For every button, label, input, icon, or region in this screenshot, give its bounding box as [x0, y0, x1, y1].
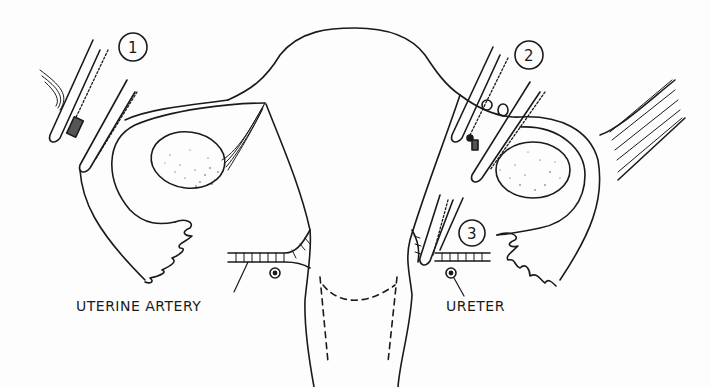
left-broad-ligament-outer: [80, 170, 145, 280]
left-fimbriae: [145, 220, 192, 282]
uterus-diagram: 1 2: [0, 0, 710, 387]
cervix-incision-line: [320, 277, 397, 362]
right-ligament-fan: [610, 80, 682, 172]
left-uterine-wall: [266, 104, 314, 387]
right-ovary: [496, 142, 570, 198]
left-tube: [125, 100, 228, 120]
left-ovary-stipple: [165, 150, 219, 187]
left-ligament-fan: [222, 103, 265, 170]
right-fimbriae: [497, 233, 556, 286]
right-uterine-wall: [398, 95, 460, 387]
uterus-fundus-outline: [228, 28, 460, 100]
clamp-3-number: 3: [467, 225, 477, 243]
clamp-1: [40, 40, 137, 172]
right-ovary-stipple: [499, 152, 560, 191]
ureter-label: URETER: [446, 298, 505, 314]
clamp-1-number: 1: [128, 39, 138, 57]
clamp-2-number: 2: [524, 47, 534, 65]
left-broad-ligament-inner: [112, 103, 265, 224]
uterine-artery-label: UTERINE ARTERY: [76, 298, 201, 314]
left-uterine-artery: [228, 230, 310, 268]
left-artery-stripes: [236, 238, 310, 262]
left-ovary: [147, 127, 228, 193]
surgical-illustration: 1 2: [0, 0, 710, 387]
clamp-3: [420, 195, 463, 265]
ureter-pointer: [454, 278, 464, 296]
uterine-artery-pointer: [234, 262, 248, 292]
